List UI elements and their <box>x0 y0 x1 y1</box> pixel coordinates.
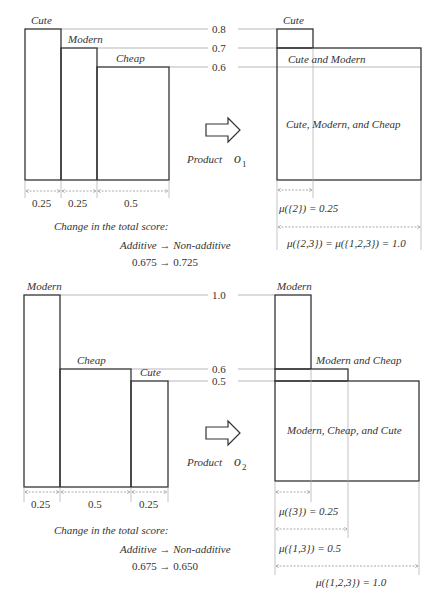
bar-label-cheap: Cheap <box>77 354 106 366</box>
level-label: 0.5 <box>212 375 226 387</box>
mu-label: μ({1,2,3}) = 1.0 <box>315 576 387 589</box>
region-cute <box>277 29 313 48</box>
mu-label: μ({1,3}) = 0.5 <box>278 542 342 555</box>
bar-label-cute: Cute <box>140 366 161 378</box>
level-label: 1.0 <box>212 289 226 301</box>
width-label: 0.5 <box>88 498 102 510</box>
region-label-modern: Modern <box>276 280 312 292</box>
panel-product-2: 1.0 0.6 0.5 Modern Cheap Cute 0.25 0.5 0… <box>24 280 419 589</box>
change-line-2: 0.675 → 0.650 <box>132 560 199 572</box>
width-label: 0.25 <box>68 197 88 209</box>
change-line-1: Additive → Non-additive <box>119 543 231 555</box>
product-symbol: o <box>234 454 241 469</box>
mu-label: μ({2,3}) = μ({1,2,3}) = 1.0 <box>286 237 406 250</box>
level-label: 0.6 <box>212 363 226 375</box>
product-label: Product <box>186 456 223 468</box>
bar-label-modern: Modern <box>26 280 62 292</box>
region-label-cute-modern: Cute and Modern <box>288 53 366 65</box>
product-subscript: 1 <box>242 159 247 169</box>
bar-modern <box>61 48 97 180</box>
panel-product-1: 0.8 0.7 0.6 Cute Modern Cheap 0.25 0.25 … <box>25 14 421 268</box>
level-label: 0.6 <box>212 61 226 73</box>
product-symbol: o <box>234 151 241 166</box>
bar-modern <box>24 295 60 487</box>
product-label: Product <box>186 153 223 165</box>
mu-label: μ({3}) = 0.25 <box>278 505 339 518</box>
change-title: Change in the total score: <box>54 524 168 536</box>
right-arrow-icon <box>206 421 240 445</box>
level-label: 0.8 <box>212 23 226 35</box>
region-modern <box>275 295 311 369</box>
bar-label-cute: Cute <box>31 14 52 26</box>
region-label-modern-cheap: Modern and Cheap <box>315 354 402 366</box>
bar-cute <box>131 381 168 487</box>
bar-label-cheap: Cheap <box>116 52 145 64</box>
region-label-all: Modern, Cheap, and Cute <box>286 424 402 436</box>
change-line-1: Additive → Non-additive <box>119 239 231 251</box>
region-big <box>277 48 421 180</box>
region-label-all: Cute, Modern, and Cheap <box>286 118 401 130</box>
bar-cheap <box>97 67 169 180</box>
right-arrow-icon <box>206 118 240 142</box>
region-label-cute: Cute <box>283 14 304 26</box>
width-label: 0.25 <box>139 498 159 510</box>
mu-label: μ({2}) = 0.25 <box>278 202 339 215</box>
width-label: 0.5 <box>124 197 138 209</box>
width-label: 0.25 <box>31 498 51 510</box>
level-label: 0.7 <box>212 42 226 54</box>
bar-label-modern: Modern <box>67 33 103 45</box>
width-label: 0.25 <box>32 197 52 209</box>
bar-cute <box>25 29 61 180</box>
change-line-2: 0.675 → 0.725 <box>132 256 199 268</box>
change-title: Change in the total score: <box>54 220 168 232</box>
region-modern-cheap <box>275 369 348 381</box>
bar-cheap <box>60 369 131 487</box>
product-subscript: 2 <box>242 462 247 472</box>
choquet-integral-diagram: 0.8 0.7 0.6 Cute Modern Cheap 0.25 0.25 … <box>0 0 446 612</box>
